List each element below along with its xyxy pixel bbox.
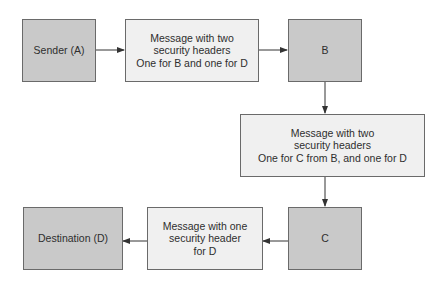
- message-two-headers-b-d: Message with two security headers One fo…: [125, 19, 259, 82]
- sender-a-label: Sender (A): [34, 44, 85, 57]
- message-1-label: Message with two security headers One fo…: [136, 32, 247, 70]
- message-2-label: Message with two security headers One fo…: [258, 127, 407, 165]
- destination-d-node: Destination (D): [23, 207, 123, 270]
- destination-d-label: Destination (D): [38, 232, 108, 245]
- sender-a-node: Sender (A): [22, 19, 96, 82]
- message-3-label: Message with one security header for D: [163, 220, 248, 258]
- message-two-headers-c-d: Message with two security headers One fo…: [240, 114, 425, 177]
- node-b: B: [288, 19, 362, 82]
- node-c-label: C: [321, 232, 329, 245]
- node-c: C: [288, 207, 362, 270]
- message-one-header-d: Message with one security header for D: [147, 207, 263, 270]
- node-b-label: B: [321, 44, 328, 57]
